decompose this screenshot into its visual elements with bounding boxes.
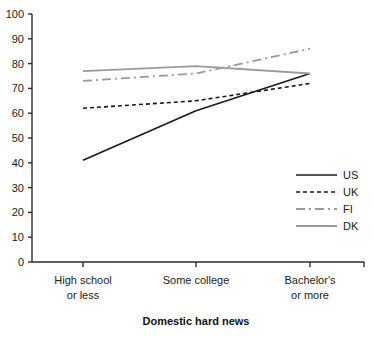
y-tick-label: 50: [12, 132, 24, 144]
chart-background: [0, 0, 374, 338]
x-category-label: High school: [54, 274, 111, 286]
x-category-label: or more: [291, 289, 329, 301]
y-tick-label: 90: [12, 33, 24, 45]
x-category-label: Bachelor's: [284, 274, 336, 286]
y-tick-label: 60: [12, 107, 24, 119]
y-tick-label: 70: [12, 82, 24, 94]
y-tick-label: 20: [12, 206, 24, 218]
y-tick-label: 100: [6, 8, 24, 20]
x-category-label: Some college: [163, 274, 230, 286]
x-axis-title: Domestic hard news: [143, 315, 250, 327]
legend-label-us: US: [343, 169, 358, 181]
y-tick-label: 30: [12, 182, 24, 194]
y-tick-label: 0: [18, 256, 24, 268]
legend-label-uk: UK: [343, 186, 359, 198]
chart-canvas: 0102030405060708090100 High schoolor les…: [0, 0, 374, 338]
legend-label-dk: DK: [343, 220, 359, 232]
legend-label-fi: FI: [343, 203, 353, 215]
x-category-label: or less: [67, 289, 100, 301]
y-tick-label: 40: [12, 157, 24, 169]
y-tick-label: 10: [12, 231, 24, 243]
y-tick-label: 80: [12, 58, 24, 70]
line-chart: 0102030405060708090100 High schoolor les…: [0, 0, 374, 338]
